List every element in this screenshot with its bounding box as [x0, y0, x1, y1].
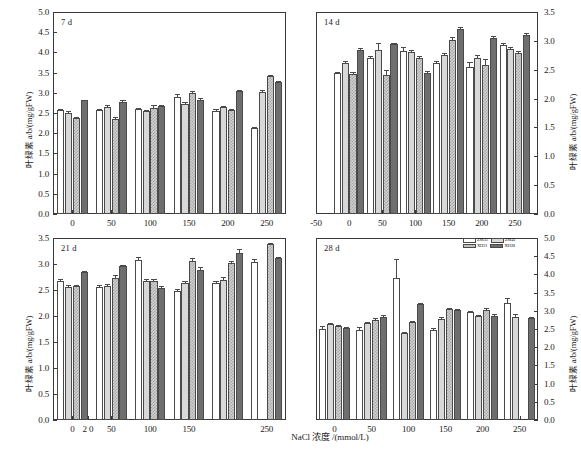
bar-XH21-150: [189, 93, 196, 214]
x-tick-mark: [316, 210, 317, 214]
error-bar: [503, 43, 504, 45]
bar-XH21-50: [372, 320, 379, 420]
bar-XH21-50: [112, 278, 119, 420]
x-tick-mark: [189, 416, 190, 420]
panel-title: 28 d: [324, 243, 340, 253]
bar-XH28-0: [81, 272, 88, 420]
error-bar: [223, 277, 224, 280]
error-bar-cap: [136, 108, 141, 109]
error-bar: [278, 81, 279, 82]
error-bar: [68, 111, 69, 113]
error-bar: [107, 105, 108, 107]
x-tick-mark: [72, 416, 73, 420]
error-bar-cap: [229, 261, 234, 262]
y-tick-mark: [534, 214, 538, 215]
bar-ZM41-100: [408, 52, 415, 214]
error-bar: [99, 109, 100, 110]
error-bar: [411, 50, 412, 53]
y-tick-label: 3.5: [21, 68, 49, 78]
y-tick-mark: [53, 52, 57, 53]
plot-frame: [316, 238, 538, 420]
error-bar: [262, 90, 263, 92]
error-bar: [360, 48, 361, 50]
y-tick-mark: [534, 402, 538, 403]
legend-swatch-XH28: [490, 244, 503, 249]
x-tick-mark: [449, 210, 450, 214]
error-bar: [153, 279, 154, 281]
error-bar: [254, 127, 255, 128]
error-bar: [270, 243, 271, 244]
bar-XH21-0: [73, 118, 80, 214]
error-bar-cap: [151, 105, 156, 106]
x-tick-mark: [482, 210, 483, 214]
error-bar-cap: [151, 279, 156, 280]
bar-ZM41-50: [375, 50, 382, 214]
error-bar: [177, 94, 178, 97]
legend-swatch-ZM35: [463, 238, 476, 243]
bar-XH28-50: [380, 317, 387, 420]
bar-ZM41-250: [512, 317, 519, 420]
error-bar: [84, 271, 85, 273]
x-tick-label: 0: [347, 218, 351, 228]
error-bar: [185, 102, 186, 103]
bar-XH21-250: [267, 76, 274, 214]
x-tick-mark: [372, 416, 373, 420]
x-tick-label: 0: [70, 424, 74, 434]
error-bar: [76, 117, 77, 118]
legend-item-ZM35: ZM35: [463, 238, 490, 243]
panel-title: 14 d: [324, 17, 340, 27]
bar-XH28-200: [491, 316, 498, 420]
error-bar-cap: [198, 267, 203, 268]
bar-XH21-0: [73, 286, 80, 420]
bar-XH21-200: [228, 263, 235, 420]
y-tick-mark: [534, 347, 538, 348]
bar-XH28-150: [197, 100, 204, 214]
error-bar: [412, 321, 413, 322]
y-tick-label: 3.5: [21, 233, 49, 243]
bar-ZM41-150: [181, 283, 188, 420]
error-bar: [510, 47, 511, 49]
error-bar-cap: [468, 311, 473, 312]
error-bar-cap: [66, 285, 71, 286]
error-bar: [200, 267, 201, 270]
error-bar-cap: [368, 56, 373, 57]
error-bar-cap: [335, 72, 340, 73]
error-bar: [393, 43, 394, 45]
bar-ZM41-50: [364, 323, 371, 420]
error-bar-cap: [198, 98, 203, 99]
y-tick-mark: [53, 153, 57, 154]
y-tick-label: 0.5: [21, 389, 49, 399]
bar-XH28-250: [528, 318, 535, 420]
error-bar: [177, 289, 178, 290]
error-bar-cap: [505, 298, 510, 299]
y-tick-label: 1.5: [544, 122, 570, 132]
error-bar: [383, 315, 384, 316]
x-tick-mark: [349, 210, 350, 214]
legend-row: ZM35ZM41: [463, 238, 517, 243]
y-tick-label: 0.5: [21, 189, 49, 199]
error-bar: [494, 314, 495, 315]
bar-ZM41-0: [65, 287, 72, 420]
error-bar-cap: [175, 94, 180, 95]
y-tick-label: 2.0: [544, 94, 570, 104]
bar-ZM35-0: [57, 281, 64, 420]
bar-ZM35-250: [251, 262, 258, 420]
error-bar-cap: [483, 59, 488, 60]
error-bar-cap: [381, 315, 386, 316]
y-tick-mark: [53, 264, 57, 265]
y-tick-mark: [534, 127, 538, 128]
x-tick-mark: [111, 416, 112, 420]
error-bar: [359, 327, 360, 330]
error-bar: [60, 279, 61, 281]
legend-label-ZM35: ZM35: [477, 238, 490, 243]
bar-XH21-150: [189, 261, 196, 420]
error-bar: [337, 72, 338, 73]
error-bar-cap: [516, 51, 521, 52]
y-tick-label: 2.0: [21, 128, 49, 138]
error-bar: [507, 298, 508, 302]
y-tick-mark: [534, 12, 538, 13]
error-bar-cap: [365, 322, 370, 323]
bar-ZM35-150: [174, 97, 181, 214]
error-bar: [403, 47, 404, 51]
y-tick-mark: [53, 73, 57, 74]
